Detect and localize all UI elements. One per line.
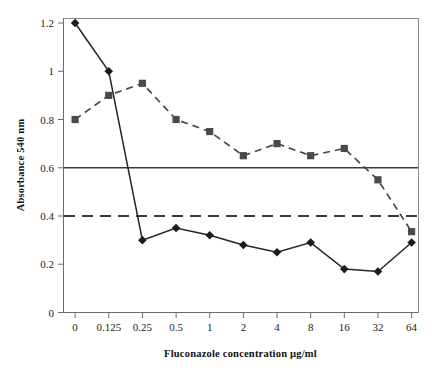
data-point-diamond bbox=[273, 248, 282, 257]
x-tick-label-8: 8 bbox=[308, 321, 314, 333]
x-tick-label-2: 2 bbox=[241, 321, 247, 333]
y-tick-label-0-2: 0.2 bbox=[40, 258, 54, 270]
x-tick-label-1: 1 bbox=[207, 321, 213, 333]
x-axis-title: Fluconazole concentration µg/ml bbox=[164, 348, 317, 359]
data-point-square bbox=[206, 128, 213, 135]
x-tick-label-0-5: 0.5 bbox=[169, 321, 183, 333]
x-axis-ticks bbox=[75, 313, 412, 319]
data-point-square bbox=[307, 152, 314, 159]
x-tick-label-0: 0 bbox=[72, 321, 78, 333]
x-tick-label-32: 32 bbox=[373, 321, 384, 333]
plot-area-border bbox=[64, 19, 419, 313]
data-point-square bbox=[72, 116, 79, 123]
y-tick-label-0-4: 0.4 bbox=[40, 210, 54, 222]
y-tick-label-0-6: 0.6 bbox=[40, 162, 54, 174]
series-diamond-solid bbox=[71, 19, 416, 276]
series-diamond-markers bbox=[71, 19, 416, 276]
y-axis-ticks bbox=[58, 23, 64, 313]
x-tick-label-0-25: 0.25 bbox=[133, 321, 153, 333]
absorbance-line-chart: 0 0.2 0.4 0.6 0.8 1 1.2 0 0.125 0.25 0.5… bbox=[0, 0, 436, 370]
chart-figure: 0 0.2 0.4 0.6 0.8 1 1.2 0 0.125 0.25 0.5… bbox=[0, 0, 436, 370]
data-point-square bbox=[172, 116, 179, 123]
series-diamond-line bbox=[75, 23, 412, 271]
x-tick-label-4: 4 bbox=[274, 321, 280, 333]
y-tick-label-1: 1 bbox=[49, 65, 55, 77]
data-point-square bbox=[374, 176, 381, 183]
data-point-square bbox=[408, 228, 415, 235]
series-square-markers bbox=[72, 80, 416, 236]
data-point-square bbox=[105, 92, 112, 99]
data-point-diamond bbox=[205, 231, 214, 240]
data-point-square bbox=[273, 140, 280, 147]
data-point-diamond bbox=[138, 236, 147, 245]
series-square-dashed bbox=[72, 80, 416, 236]
y-tick-label-1-2: 1.2 bbox=[40, 17, 54, 29]
data-point-square bbox=[139, 80, 146, 87]
data-point-diamond bbox=[172, 224, 181, 233]
x-tick-label-0-125: 0.125 bbox=[96, 321, 121, 333]
x-tick-label-16: 16 bbox=[339, 321, 351, 333]
data-point-square bbox=[240, 152, 247, 159]
data-point-square bbox=[341, 145, 348, 152]
y-tick-label-0-8: 0.8 bbox=[40, 114, 54, 126]
data-point-diamond bbox=[239, 241, 248, 250]
x-tick-label-64: 64 bbox=[406, 321, 418, 333]
y-axis-title: Absorbance 540 nm bbox=[15, 119, 26, 212]
y-tick-label-0: 0 bbox=[49, 307, 55, 319]
